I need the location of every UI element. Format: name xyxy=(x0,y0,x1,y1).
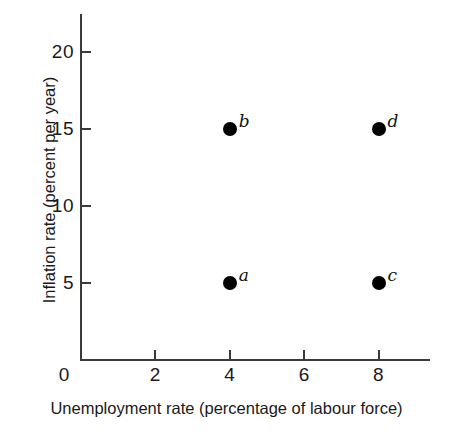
data-point-marker[interactable] xyxy=(372,276,386,290)
y-tick-mark xyxy=(82,282,91,284)
y-axis-line xyxy=(80,14,82,361)
data-point-label: c xyxy=(388,267,398,284)
x-tick-mark xyxy=(154,350,156,360)
x-tick-label: 6 xyxy=(284,364,324,385)
data-point-marker[interactable] xyxy=(372,122,386,136)
data-point-marker[interactable] xyxy=(223,122,237,136)
data-point-marker[interactable] xyxy=(223,276,237,290)
x-axis-title: Unemployment rate (percentage of labour … xyxy=(0,398,453,418)
x-tick-mark xyxy=(378,350,380,360)
data-point-label: b xyxy=(239,113,250,130)
x-tick-label: 4 xyxy=(210,364,250,385)
x-tick-label: 2 xyxy=(135,364,175,385)
data-point-label: a xyxy=(239,267,249,284)
x-tick-label: 8 xyxy=(359,364,399,385)
x-tick-mark xyxy=(229,350,231,360)
y-tick-mark xyxy=(82,51,91,53)
chart-canvas: 5101520 2468 0 abcd Inflation rate (perc… xyxy=(0,0,453,432)
y-tick-mark xyxy=(82,128,91,130)
data-point-label: d xyxy=(388,113,399,130)
y-axis-title: Inflation rate (percent per year) xyxy=(39,25,59,355)
y-tick-mark xyxy=(82,205,91,207)
x-tick-mark xyxy=(303,350,305,360)
origin-label: 0 xyxy=(52,364,76,385)
